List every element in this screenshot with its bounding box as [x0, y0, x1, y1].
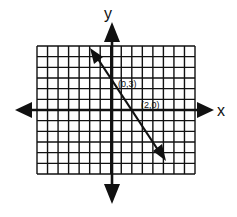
- x-axis-right-arrow-icon: [197, 102, 214, 118]
- y-axis: [104, 22, 120, 204]
- coordinate-plane: y x (0,3) (2,0): [0, 0, 237, 217]
- y-axis-up-arrow-icon: [104, 22, 120, 42]
- x-axis-label: x: [217, 102, 225, 119]
- point-label-2-0: (2,0): [141, 100, 160, 110]
- x-axis-left-arrow-icon: [15, 102, 32, 118]
- point-label-0-3: (0,3): [118, 79, 137, 89]
- y-axis-label: y: [104, 5, 112, 22]
- y-axis-down-arrow-icon: [104, 184, 120, 204]
